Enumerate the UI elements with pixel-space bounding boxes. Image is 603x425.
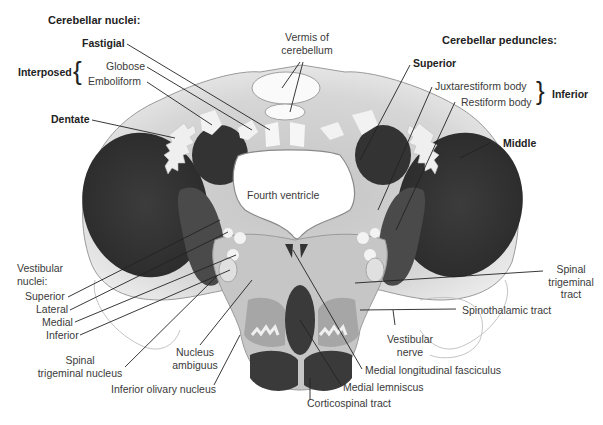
label-restiform-body: Restiform body bbox=[461, 96, 532, 109]
label-spinal-trig-tract-line3: tract bbox=[540, 288, 602, 301]
label-dentate: Dentate bbox=[51, 113, 90, 126]
vermis-lower bbox=[265, 104, 305, 120]
label-vn-inferior: Inferior bbox=[46, 329, 79, 342]
spinal-trigeminal-nucleus-left bbox=[219, 258, 237, 282]
label-nucleus-ambiguus-line1: Nucleus bbox=[165, 346, 225, 359]
label-nucleus-ambiguus-line2: ambiguus bbox=[165, 359, 225, 372]
label-emboliform: Emboliform bbox=[88, 75, 141, 88]
label-spinal-trig-tract-line1: Spinal bbox=[540, 263, 602, 276]
label-vn-medial: Medial bbox=[42, 316, 73, 329]
label-vestibular-nuclei-line2: nuclei: bbox=[17, 275, 63, 288]
label-vestibular-nuclei-line1: Vestibular bbox=[17, 262, 63, 275]
label-vermis-line1: Vermis of bbox=[272, 31, 342, 44]
label-spinal-trig-nucleus-line2: trigeminal nucleus bbox=[30, 367, 130, 380]
label-spinal-trigeminal-tract: Spinal trigeminal tract bbox=[540, 263, 602, 301]
label-spinothalamic-tract: Spinothalamic tract bbox=[462, 304, 551, 317]
olivary-left bbox=[244, 298, 285, 347]
heading-cerebellar-peduncles: Cerebellar peduncles: bbox=[442, 34, 557, 47]
inferior-brace-icon: } bbox=[536, 78, 545, 104]
label-vermis: Vermis of cerebellum bbox=[272, 31, 342, 56]
label-inferior-olivary-nucleus: Inferior olivary nucleus bbox=[111, 383, 216, 396]
spinal-trigeminal-nucleus-right bbox=[366, 258, 384, 282]
label-vestibular-nerve-line2: nerve bbox=[380, 346, 440, 359]
label-vn-lateral: Lateral bbox=[36, 303, 68, 316]
label-spinal-trigeminal-nucleus: Spinal trigeminal nucleus bbox=[30, 354, 130, 379]
label-medial-longitudinal-fasciculus: Medial longitudinal fasciculus bbox=[365, 364, 501, 377]
label-fastigial: Fastigial bbox=[82, 37, 125, 50]
vermis-upper bbox=[252, 72, 320, 104]
label-interposed: Interposed bbox=[18, 66, 72, 79]
label-middle-peduncle: Middle bbox=[503, 137, 536, 150]
interposed-brace-icon: { bbox=[73, 58, 82, 84]
label-corticospinal-tract: Corticospinal tract bbox=[307, 397, 391, 410]
label-vestibular-nerve-line1: Vestibular bbox=[380, 333, 440, 346]
label-spinal-trig-tract-line2: trigeminal bbox=[540, 276, 602, 289]
label-medial-lemniscus: Medial lemniscus bbox=[343, 381, 424, 394]
label-nucleus-ambiguus: Nucleus ambiguus bbox=[165, 346, 225, 371]
label-globose: Globose bbox=[106, 60, 145, 73]
label-spinal-trig-nucleus-line1: Spinal bbox=[30, 354, 130, 367]
label-juxtarestiform-body: Juxtarestiform body bbox=[435, 80, 527, 93]
label-vestibular-nerve: Vestibular nerve bbox=[380, 333, 440, 358]
olivary-right bbox=[318, 298, 359, 347]
label-vestibular-nuclei: Vestibular nuclei: bbox=[17, 262, 63, 287]
corticospinal-left bbox=[250, 351, 298, 391]
label-superior-peduncle: Superior bbox=[413, 57, 456, 70]
label-fourth-ventricle: Fourth ventricle bbox=[247, 189, 319, 202]
label-vermis-line2: cerebellum bbox=[272, 44, 342, 57]
label-inferior-peduncle: Inferior bbox=[552, 88, 588, 101]
label-vn-superior: Superior bbox=[25, 290, 65, 303]
heading-cerebellar-nuclei: Cerebellar nuclei: bbox=[48, 14, 140, 27]
